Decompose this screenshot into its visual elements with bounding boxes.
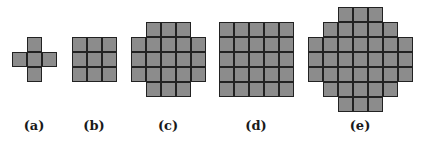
label-c: (c) [148, 118, 188, 133]
grid-cell [219, 22, 234, 37]
grid-cell [176, 22, 191, 37]
grid-cell [338, 7, 353, 22]
grid-cell [323, 37, 338, 52]
grid-cell [191, 37, 206, 52]
grid-cell [72, 67, 87, 82]
grid-cell [323, 22, 338, 37]
label-a: (a) [14, 118, 54, 133]
grid-cell [234, 22, 249, 37]
grid-cell [146, 82, 161, 97]
grid-cell [27, 67, 42, 82]
grid-cell [249, 67, 264, 82]
grid-cell [87, 52, 102, 67]
grid-cell [161, 22, 176, 37]
grid-cell [146, 37, 161, 52]
grid-cell [338, 22, 353, 37]
grid-cell [219, 82, 234, 97]
grid-cell [368, 52, 383, 67]
grid-cell [176, 67, 191, 82]
grid-cell [308, 67, 323, 82]
grid-cell [249, 37, 264, 52]
grid-cell [234, 67, 249, 82]
label-b: (b) [74, 118, 114, 133]
grid-cell [368, 97, 383, 112]
grid-cell [398, 37, 413, 52]
grid-cell [102, 67, 117, 82]
grid-cell [264, 67, 279, 82]
grid-cell [27, 52, 42, 67]
grid-cell [353, 22, 368, 37]
grid-cell [219, 52, 234, 67]
grid-cell [161, 67, 176, 82]
grid-cell [368, 7, 383, 22]
grid-cell [42, 52, 57, 67]
grid-cell [279, 37, 294, 52]
grid-cell [249, 82, 264, 97]
grid-cell [308, 52, 323, 67]
grid-cell [323, 52, 338, 67]
grid-cell [323, 67, 338, 82]
grid-cell [353, 67, 368, 82]
grid-cell [161, 37, 176, 52]
grid-cell [131, 67, 146, 82]
grid-cell [219, 67, 234, 82]
grid-cell [264, 22, 279, 37]
grid-cell [338, 52, 353, 67]
grid-cell [234, 37, 249, 52]
grid-cell [383, 52, 398, 67]
grid-cell [338, 82, 353, 97]
grid-cell [353, 82, 368, 97]
grid-cell [353, 97, 368, 112]
grid-cell [398, 67, 413, 82]
grid-cell [146, 67, 161, 82]
grid-cell [219, 37, 234, 52]
grid-cell [264, 52, 279, 67]
grid-cell [353, 37, 368, 52]
grid-cell [338, 67, 353, 82]
grid-cell [87, 67, 102, 82]
grid-cell [161, 52, 176, 67]
grid-cell [279, 82, 294, 97]
grid-cell [264, 82, 279, 97]
label-e: (e) [340, 118, 380, 133]
grid-cell [383, 37, 398, 52]
grid-cell [383, 22, 398, 37]
label-d: (d) [236, 118, 276, 133]
grid-cell [353, 52, 368, 67]
grid-cell [398, 52, 413, 67]
grid-cell [102, 37, 117, 52]
grid-cell [146, 22, 161, 37]
grid-cell [383, 82, 398, 97]
grid-cell [383, 67, 398, 82]
grid-cell [234, 82, 249, 97]
grid-cell [264, 37, 279, 52]
grid-cell [234, 52, 249, 67]
grid-cell [368, 67, 383, 82]
grid-cell [323, 82, 338, 97]
grid-cell [72, 52, 87, 67]
grid-cell [176, 37, 191, 52]
grid-cell [279, 22, 294, 37]
grid-cell [368, 37, 383, 52]
grid-cell [368, 82, 383, 97]
grid-cell [279, 52, 294, 67]
grid-cell [87, 37, 102, 52]
grid-cell [131, 37, 146, 52]
grid-cell [353, 7, 368, 22]
grid-cell [27, 37, 42, 52]
grid-cell [72, 37, 87, 52]
grid-cell [338, 37, 353, 52]
grid-cell [279, 67, 294, 82]
grid-cell [176, 82, 191, 97]
grid-cell [338, 97, 353, 112]
grid-cell [161, 82, 176, 97]
grid-cell [308, 37, 323, 52]
grid-cell [146, 52, 161, 67]
grid-cell [131, 52, 146, 67]
grid-cell [368, 22, 383, 37]
grid-cell [176, 52, 191, 67]
grid-cell [12, 52, 27, 67]
grid-cell [191, 67, 206, 82]
grid-cell [249, 22, 264, 37]
grid-cell [191, 52, 206, 67]
